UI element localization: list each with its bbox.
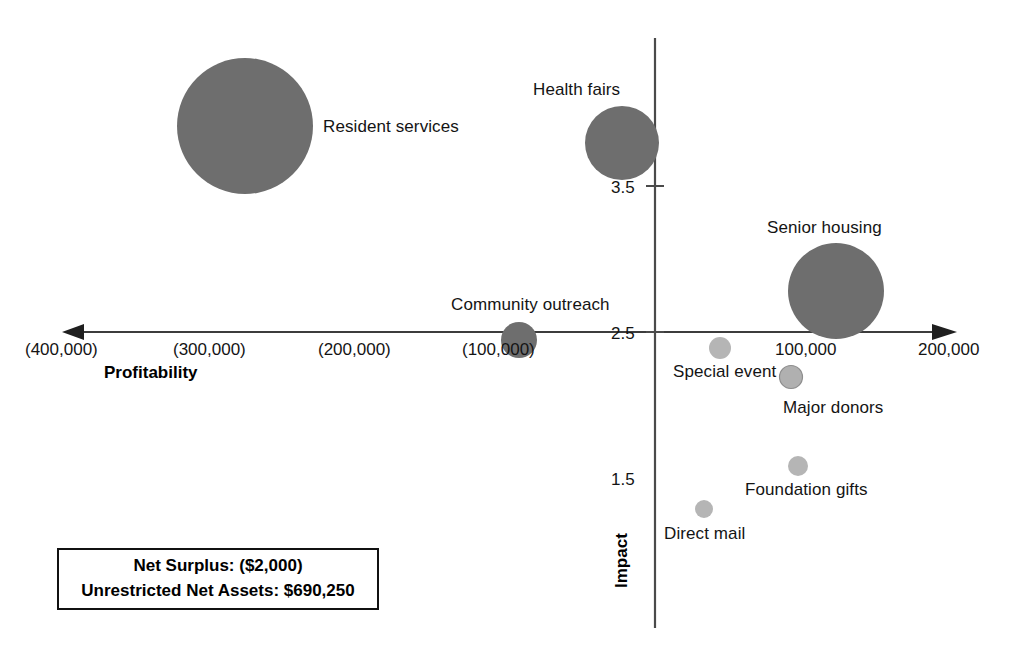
x-tick-label-100000-neg: (100,000): [462, 340, 535, 360]
x-tick-label-300000: (300,000): [173, 340, 246, 360]
bubble-series: [177, 58, 884, 518]
bubble-resident-services[interactable]: [177, 58, 313, 194]
bubble-direct-mail[interactable]: [695, 500, 713, 518]
bubble-major-donors[interactable]: [780, 366, 803, 389]
point-label-major-donors: Major donors: [783, 398, 883, 418]
x-axis-right-arrowhead: [932, 324, 957, 340]
x-tick-label-200000: (200,000): [318, 340, 391, 360]
bubble-health-fairs[interactable]: [585, 106, 659, 180]
point-label-special-event: Special event: [673, 362, 776, 382]
bubble-chart: (400,000) (300,000) (200,000) (100,000) …: [0, 0, 1020, 655]
point-label-direct-mail: Direct mail: [664, 524, 745, 544]
point-label-foundation-gifts: Foundation gifts: [745, 480, 868, 500]
net-surplus-text: Net Surplus: ($2,000): [133, 554, 302, 579]
y-tick-label-3-5: 3.5: [611, 178, 635, 198]
point-label-community-outreach: Community outreach: [451, 295, 610, 315]
point-label-resident-services: Resident services: [323, 117, 459, 137]
y-tick-label-1-5: 1.5: [611, 470, 635, 490]
bubble-senior-housing[interactable]: [788, 243, 884, 339]
summary-box: Net Surplus: ($2,000) Unrestricted Net A…: [57, 548, 379, 610]
x-tick-label-400000: (400,000): [25, 340, 98, 360]
y-axis-title: Impact: [612, 533, 632, 588]
x-axis-left-arrowhead: [62, 324, 84, 340]
x-tick-label-100000: 100,000: [775, 340, 836, 360]
bubble-foundation-gifts[interactable]: [788, 456, 808, 476]
point-label-senior-housing: Senior housing: [767, 218, 882, 238]
x-tick-label-200000: 200,000: [918, 340, 979, 360]
unrestricted-net-assets-text: Unrestricted Net Assets: $690,250: [81, 579, 354, 604]
y-tick-label-2-5: 2.5: [611, 324, 635, 344]
x-axis-title: Profitability: [104, 363, 198, 383]
point-label-health-fairs: Health fairs: [533, 80, 620, 100]
bubble-special-event[interactable]: [709, 337, 731, 359]
